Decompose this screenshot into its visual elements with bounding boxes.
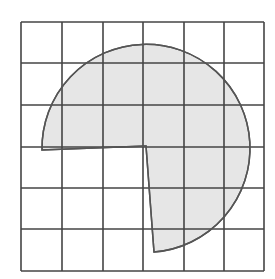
sector-grid-figure (0, 0, 275, 279)
